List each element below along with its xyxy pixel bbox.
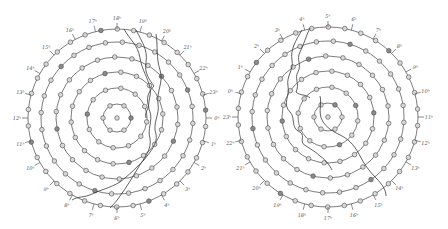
station-marker [39, 110, 44, 115]
station-marker [162, 40, 167, 45]
hour-label: 12ʰ [421, 140, 430, 146]
station-marker [73, 135, 78, 140]
station-marker [171, 139, 176, 144]
station-marker [333, 103, 338, 108]
station-marker [293, 199, 298, 204]
station-marker [251, 126, 256, 131]
station-marker [387, 48, 392, 53]
station-marker [353, 103, 358, 108]
station-marker [320, 191, 325, 196]
station-marker [40, 127, 45, 132]
hour-tick [194, 163, 199, 166]
station-marker [341, 56, 346, 61]
station-marker [397, 169, 402, 174]
station-marker [370, 127, 375, 132]
station-marker [68, 40, 73, 45]
hour-tick [35, 163, 40, 166]
station-marker [298, 126, 303, 131]
station-marker [322, 144, 327, 149]
station-marker [361, 165, 366, 170]
hour-label: 5ʰ [325, 13, 330, 19]
station-marker [263, 158, 268, 163]
station-marker [44, 144, 49, 149]
hour-label: 2ʰ [200, 165, 206, 171]
station-marker [156, 96, 161, 101]
station-marker [186, 62, 191, 67]
hour-label: 22ʰ [225, 140, 235, 146]
station-marker [134, 74, 139, 79]
station-marker [82, 148, 87, 153]
hour-label: 6ʰ [114, 215, 119, 221]
station-marker [117, 177, 122, 182]
station-marker [91, 98, 96, 103]
station-marker [265, 181, 270, 186]
station-marker [323, 54, 328, 59]
hour-tick [50, 51, 54, 55]
station-marker [177, 73, 182, 78]
station-marker [98, 203, 103, 208]
station-marker [281, 156, 286, 161]
station-marker [194, 156, 199, 161]
station-marker [174, 182, 179, 187]
hour-label: 15ʰ [374, 202, 383, 208]
station-marker [236, 123, 241, 128]
station-marker [386, 181, 391, 186]
hour-label: 9ʰ [413, 64, 418, 70]
station-marker [260, 77, 265, 82]
station-marker [338, 159, 343, 164]
hour-tick [72, 34, 75, 39]
station-marker [181, 154, 186, 159]
station-marker [129, 116, 134, 121]
station-marker [369, 177, 374, 182]
station-marker [302, 97, 307, 102]
station-marker [312, 115, 317, 120]
hour-label: 21ʰ [182, 44, 192, 50]
station-marker [44, 169, 49, 174]
station-marker [270, 63, 275, 68]
station-marker [108, 128, 113, 133]
station-marker [108, 104, 113, 109]
station-marker [35, 76, 40, 81]
station-marker [386, 104, 391, 109]
station-marker [333, 127, 338, 132]
station-marker [364, 49, 369, 54]
station-marker [103, 88, 108, 93]
station-marker [278, 77, 283, 82]
station-marker [54, 109, 59, 114]
station-marker [254, 169, 259, 174]
station-marker [274, 171, 279, 176]
station-marker [345, 73, 350, 78]
hour-label: 13ʰ [16, 89, 25, 95]
station-marker [293, 147, 298, 152]
station-marker [283, 52, 288, 57]
station-marker [142, 104, 147, 109]
station-marker [309, 203, 314, 208]
hour-tick [260, 181, 264, 185]
station-marker [355, 119, 360, 124]
station-marker [344, 91, 349, 96]
station-marker [52, 159, 57, 164]
station-marker [278, 191, 283, 196]
station-marker [266, 126, 271, 131]
station-marker [175, 50, 180, 55]
station-marker [95, 58, 100, 63]
station-marker [122, 128, 127, 133]
station-marker [401, 103, 406, 108]
hour-label: 9ʰ [44, 186, 49, 192]
station-marker [67, 78, 72, 83]
hour-label: 14ʰ [26, 65, 35, 71]
hour-label: 19ʰ [273, 202, 282, 208]
station-marker [284, 134, 289, 139]
station-marker [55, 181, 60, 186]
station-marker [265, 48, 270, 53]
station-marker [195, 76, 200, 81]
station-marker [190, 104, 195, 109]
station-marker [191, 121, 196, 126]
station-marker [59, 64, 64, 69]
station-marker [112, 55, 117, 60]
hour-tick [180, 51, 184, 55]
hour-label: 20ʰ [162, 28, 172, 34]
station-marker [77, 182, 82, 187]
station-marker [171, 167, 176, 172]
station-marker [415, 107, 420, 112]
